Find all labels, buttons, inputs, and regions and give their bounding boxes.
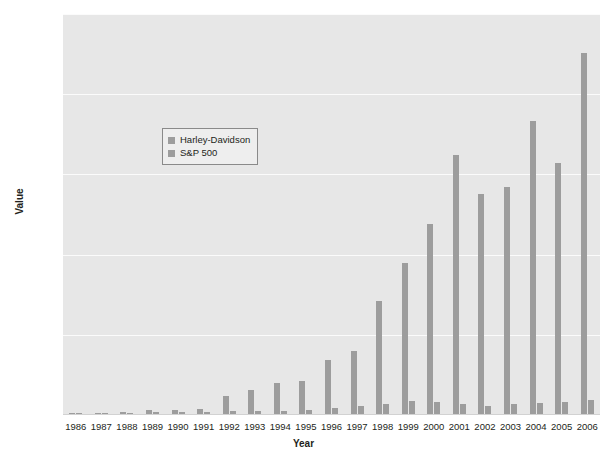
bar-group: [478, 14, 491, 415]
bar-harley-davidson-1996: [325, 360, 331, 415]
bar-harley-davidson-1992: [223, 396, 229, 415]
bar-harley-davidson-1998: [376, 301, 382, 415]
bar-harley-davidson-1999: [402, 263, 408, 415]
bar-group: [453, 14, 466, 415]
x-axis-tick-label: 2006: [567, 421, 607, 433]
bar-group: [299, 14, 312, 415]
bar-group: [504, 14, 517, 415]
plot-area: Harley-Davidson S&P 500: [63, 14, 600, 415]
bar-harley-davidson-1993: [248, 390, 254, 415]
bar-harley-davidson-1997: [351, 351, 357, 415]
bar-group: [530, 14, 543, 415]
legend-item-sp-500: S&P 500: [168, 147, 250, 159]
stock-performance-bar-chart: Value $0$5,000$10,000$15,000$20,000$25,0…: [0, 0, 607, 459]
bar-group: [376, 14, 389, 415]
x-axis-baseline: [63, 414, 600, 415]
legend-label: Harley-Davidson: [180, 135, 250, 145]
bar-group: [248, 14, 261, 415]
bar-group: [69, 14, 82, 415]
bar-group: [325, 14, 338, 415]
bar-harley-davidson-2000: [427, 224, 433, 415]
legend-swatch-icon: [168, 137, 175, 144]
bar-group: [146, 14, 159, 415]
bar-group: [197, 14, 210, 415]
bar-group: [555, 14, 568, 415]
bar-group: [351, 14, 364, 415]
bar-group: [223, 14, 236, 415]
bar-harley-davidson-2005: [555, 163, 561, 415]
x-axis-title: Year: [0, 438, 607, 449]
legend-label: S&P 500: [180, 148, 217, 158]
bar-group: [581, 14, 594, 415]
bar-harley-davidson-2004: [530, 121, 536, 415]
legend-item-harley-davidson: Harley-Davidson: [168, 134, 250, 146]
y-axis-title: Value: [14, 172, 25, 232]
x-axis-tick-labels: 1986198719881989199019911992199319941995…: [63, 421, 600, 435]
bar-harley-davidson-1994: [274, 383, 280, 415]
bar-group: [274, 14, 287, 415]
bar-harley-davidson-1995: [299, 381, 305, 415]
bar-group: [95, 14, 108, 415]
bar-harley-davidson-2003: [504, 187, 510, 415]
bar-group: [402, 14, 415, 415]
bar-group: [120, 14, 133, 415]
bar-group: [427, 14, 440, 415]
bar-harley-davidson-2006: [581, 53, 587, 416]
legend-swatch-icon: [168, 150, 175, 157]
bar-harley-davidson-2001: [453, 155, 459, 415]
bar-sp-500-2006: [588, 400, 594, 415]
bar-sp-500-1999: [409, 401, 415, 415]
bar-group: [172, 14, 185, 415]
bar-harley-davidson-2002: [478, 194, 484, 415]
chart-legend: Harley-Davidson S&P 500: [162, 128, 258, 165]
